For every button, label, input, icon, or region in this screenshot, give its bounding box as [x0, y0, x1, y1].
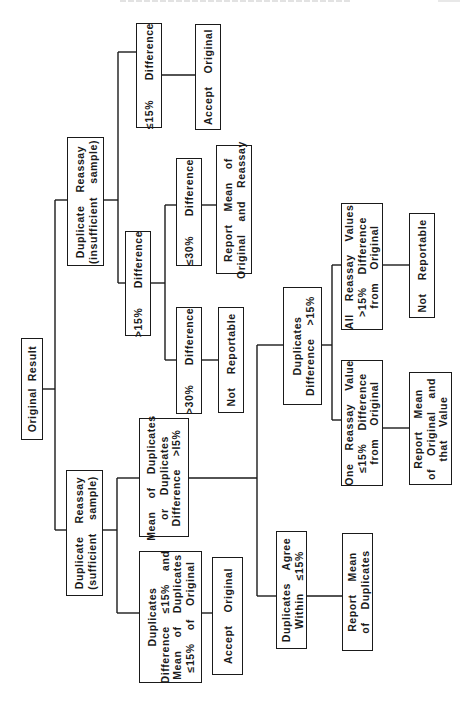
node-label: Accept Original: [202, 29, 215, 125]
node-report-mean-of-duplicates: Report Mean of Duplicates: [342, 533, 373, 651]
node-duplicates-difference-gt15: Duplicates Difference >15%: [283, 287, 322, 405]
node-insufficient-gt15-difference: >15% Difference: [125, 231, 151, 336]
node-label: >15% Difference: [132, 230, 145, 336]
node-sufficient-accept-original: Accept Original: [212, 557, 243, 675]
node-label: One Reassay Value ≤15% Difference from O…: [343, 360, 381, 486]
node-duplicate-reassay-insufficient: Duplicate Reassay (insufficient sample): [67, 137, 104, 266]
node-duplicate-reassay-sufficient: Duplicate Reassay (sufficient sample): [66, 470, 103, 596]
node-insufficient-le15-difference: ≤15% Difference: [136, 23, 162, 128]
node-label: >30% Difference: [183, 307, 196, 413]
node-duplicates-le15-and-mean-le15: Duplicates Difference ≤15% and Mean of D…: [139, 551, 202, 683]
node-label: Duplicates Difference ≤15% and Mean of D…: [146, 550, 196, 683]
node-mean-or-difference-gt15: Mean of Duplicates or Duplicates Differe…: [139, 418, 189, 537]
node-label: All Reassay Values >15% Difference from …: [343, 204, 381, 329]
node-all-reassay-values-gt15: All Reassay Values >15% Difference from …: [341, 203, 383, 330]
node-label: Mean of Duplicates or Duplicates Differe…: [145, 415, 183, 541]
node-report-mean-original-that-value: Report Mean of Original and that Value: [409, 372, 452, 485]
node-report-mean-original-reassay: Report Mean of Original and Reassay: [216, 145, 252, 274]
node-label: ≤15% Difference: [143, 22, 156, 128]
node-original-result: Original Result: [21, 338, 43, 440]
node-duplicates-agree-within-le15: Duplicates Agree Within ≤15%: [276, 531, 307, 649]
node-label: Original Result: [26, 346, 39, 433]
node-insufficient-not-reportable: Not Reportable: [218, 307, 244, 413]
node-insufficient-accept-original: Accept Original: [195, 24, 221, 130]
node-label: Report Mean of Original and that Value: [412, 377, 450, 479]
node-label: Not Reportable: [225, 313, 238, 406]
node-insufficient-le30-difference: ≤30% Difference: [176, 158, 202, 266]
node-label: ≤30% Difference: [183, 159, 196, 265]
node-label: Duplicates Agree Within ≤15%: [279, 538, 304, 643]
node-label: Duplicate Reassay (insufficient sample): [73, 139, 98, 263]
node-label: Report Mean of Duplicates: [345, 550, 370, 633]
node-label: Duplicates Difference >15%: [290, 296, 315, 396]
node-label: Report Mean of Original and Reassay: [222, 141, 247, 279]
node-label: Duplicate Reassay (sufficient sample): [72, 476, 97, 590]
node-insufficient-gt30-difference: >30% Difference: [176, 307, 202, 414]
node-one-reassay-value-le15: One Reassay Value ≤15% Difference from O…: [341, 360, 383, 486]
node-sufficient-not-reportable: Not Reportable: [409, 213, 435, 318]
node-label: Not Reportable: [416, 219, 429, 312]
node-label: Accept Original: [221, 568, 234, 664]
